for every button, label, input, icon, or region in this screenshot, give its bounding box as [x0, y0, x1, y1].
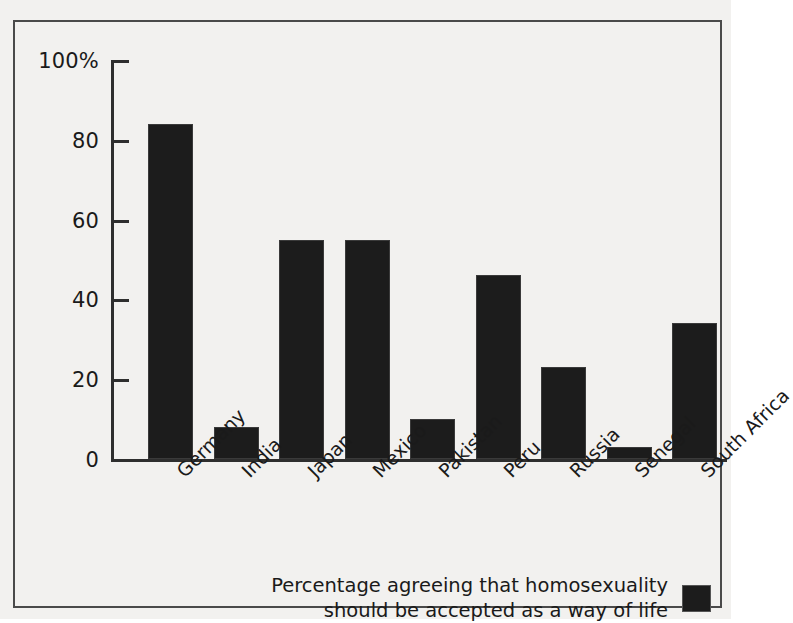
bar-germany — [148, 124, 193, 459]
y-tick-label: 60 — [72, 209, 99, 233]
bar-series — [114, 60, 727, 459]
x-axis-category-labels: GermanyIndiaJapanMexicoPakistanPeruRussi… — [111, 466, 731, 576]
bar-russia — [541, 367, 586, 459]
y-tick-mark — [113, 459, 129, 462]
y-tick-label: 20 — [72, 368, 99, 392]
bar-mexico — [345, 240, 390, 459]
chart-frame-border: 020406080100% GermanyIndiaJapanMexicoPak… — [13, 20, 722, 608]
legend-label: Percentage agreeing that homosexuality s… — [271, 573, 668, 623]
y-tick-label: 0 — [85, 448, 99, 472]
y-tick-label: 100% — [38, 49, 99, 73]
y-tick-label: 80 — [72, 129, 99, 153]
y-tick-label: 40 — [72, 288, 99, 312]
legend-color-swatch — [682, 585, 711, 612]
plot-area: 020406080100% — [111, 60, 727, 462]
bar-japan — [279, 240, 324, 459]
chart-legend: Percentage agreeing that homosexuality s… — [195, 573, 711, 623]
